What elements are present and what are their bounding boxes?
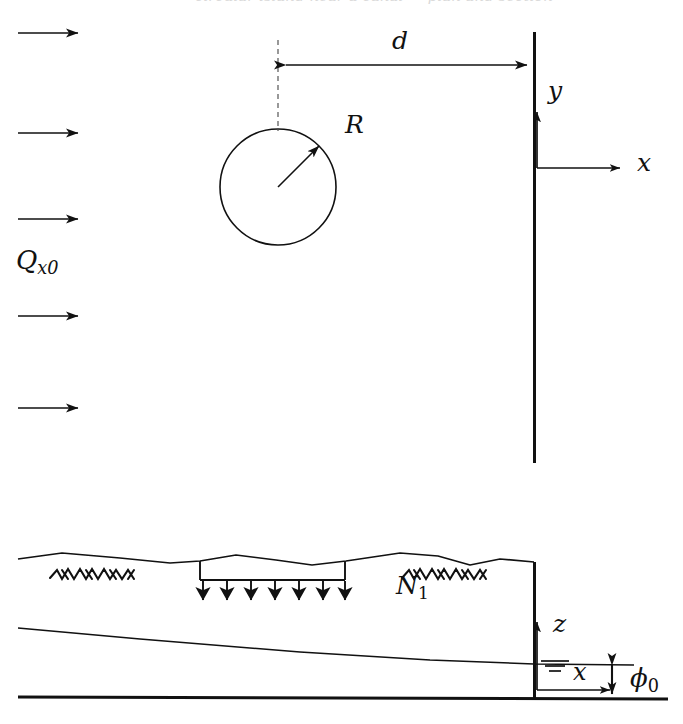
- label-recharge-subscript: 1: [418, 583, 429, 603]
- label-axis-x-plan: x: [637, 150, 651, 175]
- ground-surface-line: [18, 553, 534, 565]
- label-axis-y-plan: y: [548, 78, 562, 103]
- inflow-arrow-group: [18, 33, 78, 408]
- label-axis-z-section: z: [553, 611, 566, 636]
- label-inflow-Qx0: Qx0: [16, 247, 59, 278]
- label-radius-R: R: [345, 112, 364, 137]
- label-distance-d: d: [392, 28, 408, 53]
- label-head-subscript: 0: [648, 676, 659, 696]
- plan-axes: [537, 112, 620, 168]
- figure-groundwater-diagram: circular island near a canal — plan and …: [0, 0, 683, 724]
- radius-arrow: [278, 146, 319, 187]
- label-recharge-N1: N1: [396, 573, 429, 602]
- vegetation-hatch-left: [50, 569, 134, 579]
- impermeable-base-line: [18, 697, 668, 699]
- recharge-arrow-group: [203, 581, 345, 600]
- water-table-line: [18, 628, 634, 665]
- label-inflow-subscript: x0: [37, 258, 58, 278]
- diagram-canvas: [0, 0, 683, 724]
- label-head-phi0: ϕ0: [630, 665, 659, 696]
- water-table-symbol: [541, 661, 569, 671]
- label-axis-x-section: x: [573, 660, 587, 684]
